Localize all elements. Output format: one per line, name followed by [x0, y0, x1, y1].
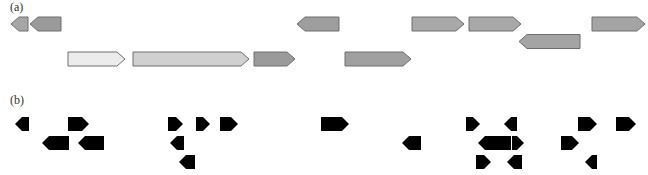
gene-arrow-b-16 [476, 155, 491, 169]
gene-arrow-b-9 [179, 155, 195, 169]
gene-arrow-a-1 [11, 17, 28, 31]
gene-arrow-b-7 [220, 117, 238, 131]
gene-arrow-b-14 [478, 136, 511, 150]
gene-arrow-a-2 [30, 17, 61, 31]
gene-arrow-b-10 [321, 117, 349, 131]
gene-arrow-b-13 [504, 117, 517, 131]
gene-arrow-b-18 [578, 117, 597, 131]
gene-arrow-a-3 [68, 52, 125, 66]
gene-arrow-b-6 [196, 117, 210, 131]
gene-arrow-b-21 [585, 155, 597, 169]
gene-arrow-a-7 [345, 52, 411, 66]
gene-arrow-b-1 [15, 117, 29, 131]
gene-arrow-b-5 [168, 117, 183, 131]
gene-arrow-b-8 [170, 136, 184, 150]
gene-diagram [0, 0, 648, 175]
gene-arrow-a-4 [133, 52, 249, 66]
gene-arrow-b-15 [512, 136, 524, 150]
gene-arrow-b-20 [561, 136, 579, 150]
gene-arrow-b-17 [507, 155, 522, 169]
gene-arrow-a-5 [254, 52, 295, 66]
gene-arrow-b-2 [68, 117, 89, 131]
gene-arrow-a-8 [412, 17, 464, 31]
gene-arrow-b-11 [402, 136, 421, 150]
panel-b-gene-track [15, 117, 636, 169]
gene-arrow-a-10 [519, 35, 580, 49]
gene-arrow-a-9 [469, 17, 521, 31]
gene-arrow-b-3 [42, 136, 69, 150]
gene-arrow-b-12 [466, 117, 480, 131]
gene-arrow-a-6 [297, 17, 339, 31]
gene-arrow-b-19 [616, 117, 636, 131]
panel-a-gene-track [11, 17, 645, 66]
gene-arrow-b-4 [78, 136, 104, 150]
gene-arrow-a-11 [592, 17, 645, 31]
